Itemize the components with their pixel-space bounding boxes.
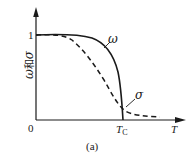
y-axis-label-omega: ω (22, 69, 36, 79)
tc-subscript: C (122, 128, 127, 137)
origin-label: 0 (28, 123, 34, 134)
x-axis-label: T (171, 124, 177, 135)
y-axis-arrow-icon (33, 7, 39, 17)
tc-tick-label: TC (116, 124, 127, 137)
y-tick-label-1: 1 (28, 30, 34, 41)
sigma-annotation: σ (135, 89, 143, 101)
phase-transition-chart: ω和σ 1 0 TC T ω σ (a) (0, 0, 192, 159)
y-axis-label: ω和σ (21, 47, 35, 83)
sigma-curve (36, 35, 160, 117)
figure-caption: (a) (86, 141, 98, 152)
omega-annotation: ω (108, 33, 118, 45)
y-axis-label-sigma: σ (22, 51, 36, 59)
y-axis-label-and: 和 (24, 59, 35, 69)
sigma-leader-line (126, 99, 135, 107)
